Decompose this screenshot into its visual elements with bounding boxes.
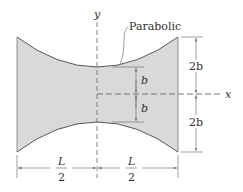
L2-right-den: 2 — [128, 171, 135, 184]
parabolic-leader — [120, 27, 128, 64]
2b-top-label: 2b — [189, 60, 203, 73]
x-axis-label: x — [225, 88, 232, 101]
L2-left-den: 2 — [58, 171, 65, 184]
parabolic-label: Parabolic — [129, 20, 181, 33]
parabolic-shape — [17, 37, 178, 152]
y-axis-label: y — [93, 8, 101, 21]
b-bottom-label: b — [141, 102, 148, 115]
L2-left-num: L — [57, 155, 65, 168]
L2-right-num: L — [127, 155, 135, 168]
b-top-label: b — [141, 74, 148, 87]
2b-bottom-label: 2b — [189, 116, 203, 129]
beam-diagram: y x Parabolic b b 2b 2b L 2 L 2 — [0, 0, 243, 192]
